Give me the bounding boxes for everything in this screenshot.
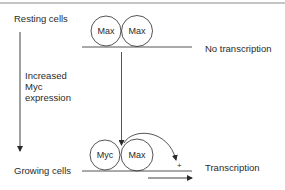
max-label-2: Max <box>122 26 152 36</box>
transition-label-line2: Myc <box>25 81 42 92</box>
myc-label: Myc <box>90 150 120 160</box>
max-label-1: Max <box>91 26 121 36</box>
transition-label-line3: expression <box>25 92 71 103</box>
activation-plus-mark: + <box>177 160 182 171</box>
max-label-3: Max <box>122 150 152 160</box>
no-transcription-label: No transcription <box>205 43 272 54</box>
growing-cells-label: Growing cells <box>14 165 71 176</box>
resting-cells-label: Resting cells <box>14 13 68 24</box>
transcription-label: Transcription <box>205 162 260 173</box>
transition-label-line1: Increased <box>25 70 67 81</box>
